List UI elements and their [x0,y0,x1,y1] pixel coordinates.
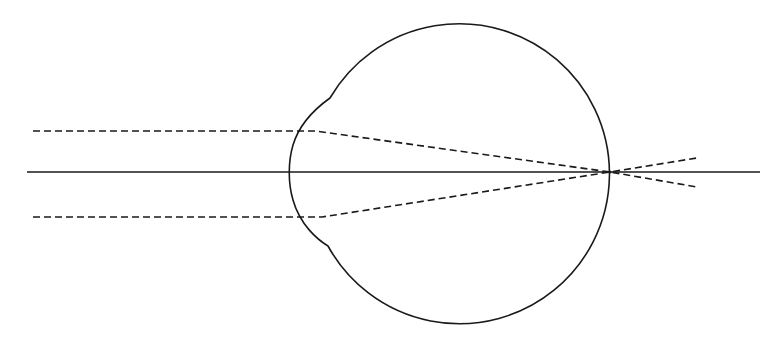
eyeball-outline [289,24,609,324]
lower-incident-ray [33,172,697,217]
eye-optics-diagram [0,0,783,345]
upper-incident-ray [33,131,697,172]
focal-point [609,171,612,174]
